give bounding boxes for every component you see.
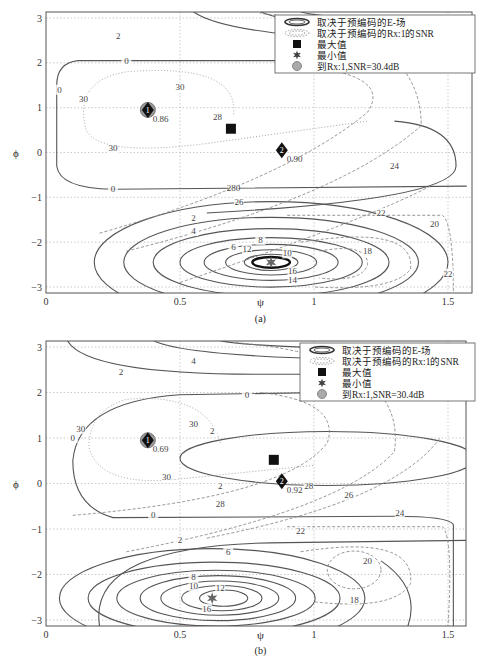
- snr-contour-30: [89, 399, 314, 481]
- y-tick-label: −2: [31, 569, 42, 580]
- figure: 0003030302282802468101214161820222426220…: [0, 0, 480, 666]
- panel-caption: (b): [255, 645, 267, 657]
- y-tick-label: 0: [37, 478, 42, 489]
- x-tick-label: 0.5: [174, 629, 187, 640]
- min-star-marker: [207, 592, 217, 604]
- y-tick-label: 3: [37, 13, 42, 24]
- markers: 10.8620.90: [140, 102, 303, 268]
- legend-label: 最大值: [342, 367, 372, 378]
- snr-contour-24: [180, 184, 435, 283]
- diamond-marker-label: 2: [280, 477, 284, 486]
- diamond-marker-label: 2: [280, 146, 284, 155]
- legend-label: 到Rx:1,SNR=30.4dB: [342, 389, 424, 400]
- y-tick-label: 0: [37, 147, 42, 158]
- contour-label: 0: [245, 390, 250, 400]
- contour-label: 18: [350, 595, 360, 605]
- y-tick-label: 2: [37, 387, 42, 398]
- contour-label: 14: [288, 275, 298, 285]
- contour-label: 8: [258, 235, 263, 245]
- contour-label: 28: [216, 499, 226, 509]
- contour-label: 30: [79, 94, 89, 104]
- contour-label: 16: [202, 604, 212, 614]
- legend: 取决于预编码的E-场取决于预编码的Rx:1的SNR最大值最小值到Rx:1,SNR…: [275, 15, 475, 73]
- x-axis-label: ψ: [257, 629, 264, 641]
- legend-label: 取决于预编码的E-场: [317, 17, 406, 28]
- diamond-marker-label: 1: [146, 106, 150, 115]
- contour-label: 16: [288, 266, 298, 276]
- contour-label: 30: [176, 82, 186, 92]
- contour-label: 2: [119, 367, 124, 377]
- x-tick-label: 1.5: [442, 296, 455, 307]
- diamond-marker-value: 0.92: [287, 485, 303, 495]
- efield-contour-2: [99, 540, 467, 626]
- contour-label: 10: [189, 581, 199, 591]
- snr-contour-18: [327, 551, 381, 589]
- diamond-marker-value: 0.90: [287, 154, 303, 164]
- legend-square-icon: [293, 40, 301, 48]
- legend-square-icon: [318, 368, 326, 376]
- contour-label: 28: [213, 112, 223, 122]
- contour-label: 0: [124, 56, 129, 66]
- contour-label: 30: [189, 419, 199, 429]
- legend-label: 最大值: [317, 39, 347, 50]
- contour-label: 22: [444, 269, 453, 279]
- x-tick-label: 1.5: [442, 629, 455, 640]
- contour-label: 0: [111, 184, 116, 194]
- contour-panel-b: 00030303022246281012161820282826242200.5…: [13, 341, 475, 657]
- y-tick-label: −3: [31, 282, 42, 293]
- contour-label: 0: [57, 85, 62, 95]
- diamond-marker-value: 0.86: [153, 114, 169, 124]
- y-tick-label: 3: [37, 342, 42, 353]
- efield-contour-2: [207, 121, 456, 213]
- efield-contour-inner: [117, 570, 315, 626]
- contour-label: 4: [191, 356, 196, 366]
- x-tick-label: 0: [44, 629, 49, 640]
- contour-label: 30: [109, 143, 119, 153]
- legend: 取决于预编码的E-场取决于预编码的Rx:1的SNR最大值最小值到Rx:1,SNR…: [300, 343, 475, 401]
- legend-circle-icon: [318, 390, 327, 399]
- panel-caption: (a): [255, 313, 266, 325]
- contour-label: 0: [71, 433, 76, 443]
- x-tick-label: 1: [312, 629, 317, 640]
- snr-contour-30: [84, 70, 368, 148]
- efield-contour-2: [180, 431, 475, 485]
- contour-label: 24: [395, 508, 405, 518]
- legend-label: 取决于预编码的E-场: [342, 345, 431, 356]
- snr-contour-28: [73, 393, 330, 516]
- efield-contour-4: [381, 561, 411, 627]
- contour-label: 6: [226, 547, 231, 557]
- contour-label: 280: [227, 183, 241, 193]
- x-tick-label: 0.5: [174, 296, 187, 307]
- contour-label: 2: [191, 213, 196, 223]
- contour-label: 2: [210, 426, 215, 436]
- y-axis-label: ϕ: [13, 478, 19, 490]
- efield-contour-0: [57, 61, 467, 190]
- contour-label: 4: [191, 226, 196, 236]
- y-tick-label: −1: [31, 192, 42, 203]
- y-tick-label: 1: [37, 433, 42, 444]
- max-square-marker: [269, 455, 279, 465]
- contour-label: 22: [377, 208, 386, 218]
- contour-label: 20: [430, 219, 440, 229]
- diamond-marker-label: 1: [146, 436, 150, 445]
- contour-label: 22: [296, 526, 305, 536]
- y-tick-label: −3: [31, 615, 42, 626]
- contour-label: 28: [304, 481, 314, 491]
- snr-contour-24: [207, 438, 440, 538]
- x-axis-label: ψ: [257, 296, 264, 308]
- contour-label: 10: [283, 248, 293, 258]
- contour-label: 12: [243, 244, 252, 254]
- contour-label: 18: [363, 246, 373, 256]
- markers: 10.6920.92: [140, 432, 302, 604]
- contour-label: 20: [363, 556, 373, 566]
- contour-label: 2: [218, 481, 223, 491]
- y-axis-label: ϕ: [13, 147, 19, 159]
- contour-label: 26: [344, 490, 354, 500]
- y-tick-label: 2: [37, 57, 42, 68]
- snr-contour-18: [319, 249, 367, 279]
- snr-contour-28: [100, 65, 373, 233]
- y-tick-label: −1: [31, 524, 42, 535]
- contour-label: 6: [231, 242, 236, 252]
- contour-label: 26: [234, 197, 244, 207]
- legend-label: 取决于预编码的Rx:1的SNR: [342, 356, 460, 367]
